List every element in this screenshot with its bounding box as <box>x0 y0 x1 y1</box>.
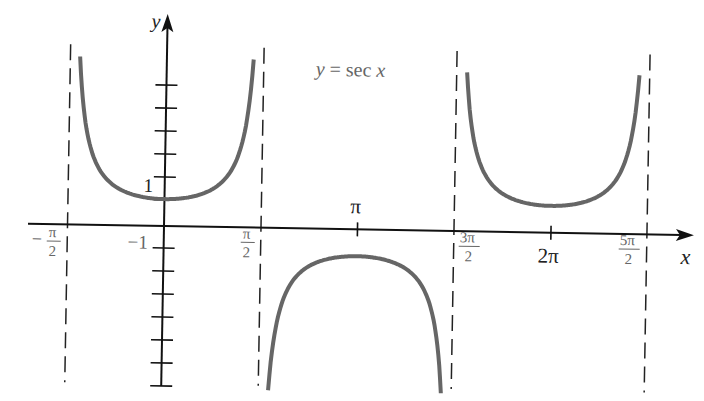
frac-den: 2 <box>464 248 472 264</box>
sec-branch-3 <box>465 72 640 207</box>
x-axis-label: x <box>679 244 690 269</box>
sec-graph: y x 1 −1 π 2π − π 2 π 2 3π 2 5π 2 <box>0 0 704 401</box>
frac-den: 2 <box>624 251 632 267</box>
sec-branch-2 <box>268 255 443 393</box>
y-axis <box>161 28 167 386</box>
asymptote-3pi-over-2 <box>451 51 457 389</box>
tick-label-1: 1 <box>144 175 154 196</box>
tick-label-neg1: −1 <box>128 231 149 252</box>
tick-label-3pi-over-2: 3π 2 <box>458 229 480 264</box>
tick-label-neg-pi-over-2: − π 2 <box>31 224 61 260</box>
asymptote-neg-pi-over-2 <box>65 44 71 382</box>
frac-den: 2 <box>242 244 250 260</box>
asymptote-5pi-over-2 <box>644 54 650 392</box>
frac-num: π <box>243 225 251 241</box>
tick-label-pi: π <box>350 194 361 218</box>
annotation-eq: = sec <box>324 58 376 81</box>
frac-num: π <box>49 224 57 240</box>
tick-label-2pi: 2π <box>537 244 559 268</box>
frac-den: 2 <box>48 243 56 259</box>
tick-label-5pi-over-2: 5π 2 <box>618 232 640 267</box>
frac-num: 5π <box>620 232 636 248</box>
function-annotation: y = sec x <box>314 58 386 82</box>
neg-sign: − <box>32 229 43 249</box>
y-axis-label: y <box>149 10 160 33</box>
x-axis <box>28 224 682 235</box>
tick-label-pi-over-2: π 2 <box>240 225 255 260</box>
asymptote-pi-over-2 <box>258 48 264 386</box>
frac-num: 3π <box>460 229 476 245</box>
annotation-x: x <box>375 59 385 81</box>
annotation-y: y <box>314 58 325 81</box>
